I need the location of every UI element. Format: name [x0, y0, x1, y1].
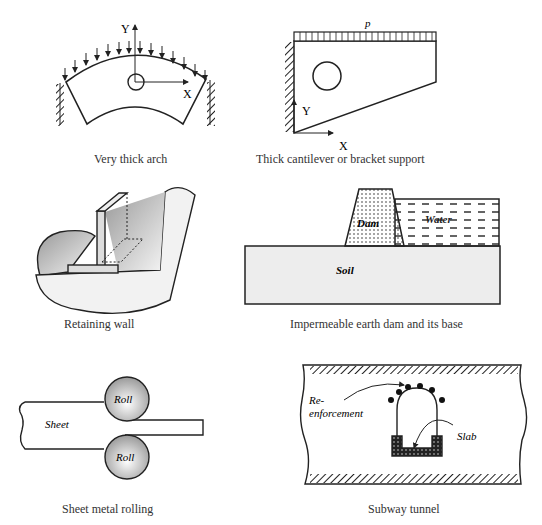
reinforcement-label-line1: Re-: [308, 394, 325, 406]
roll-bottom-label: Roll: [115, 451, 134, 463]
dam-diagram: [245, 189, 500, 304]
reinforcement-label-line2: enforcement: [309, 407, 364, 419]
tunnel-diagram: [301, 365, 527, 484]
arch-x-label: X: [183, 87, 192, 101]
rolling-caption: Sheet metal rolling: [62, 502, 153, 517]
figure-canvas: Y X p Y X Dam Water Soil: [0, 0, 542, 525]
tunnel-caption: Subway tunnel: [368, 502, 440, 517]
cantilever-x-label: X: [339, 139, 348, 153]
cantilever-caption: Thick cantilever or bracket support: [256, 152, 425, 167]
cantilever-y-label: Y: [302, 104, 311, 118]
cantilever-load-label: p: [364, 17, 371, 29]
sheet-label: Sheet: [45, 418, 70, 430]
slab-label: Slab: [457, 430, 477, 442]
dam-label: Dam: [356, 217, 379, 229]
arch-y-label: Y: [121, 22, 130, 36]
soil-label: Soil: [336, 264, 355, 276]
arch-diagram: [56, 25, 215, 126]
retaining-wall-diagram: [36, 188, 195, 314]
water-label: Water: [425, 213, 452, 225]
retaining-wall-caption: Retaining wall: [64, 317, 134, 332]
arch-caption: Very thick arch: [94, 152, 167, 167]
dam-caption: Impermeable earth dam and its base: [290, 317, 463, 332]
roll-top-label: Roll: [113, 393, 132, 405]
